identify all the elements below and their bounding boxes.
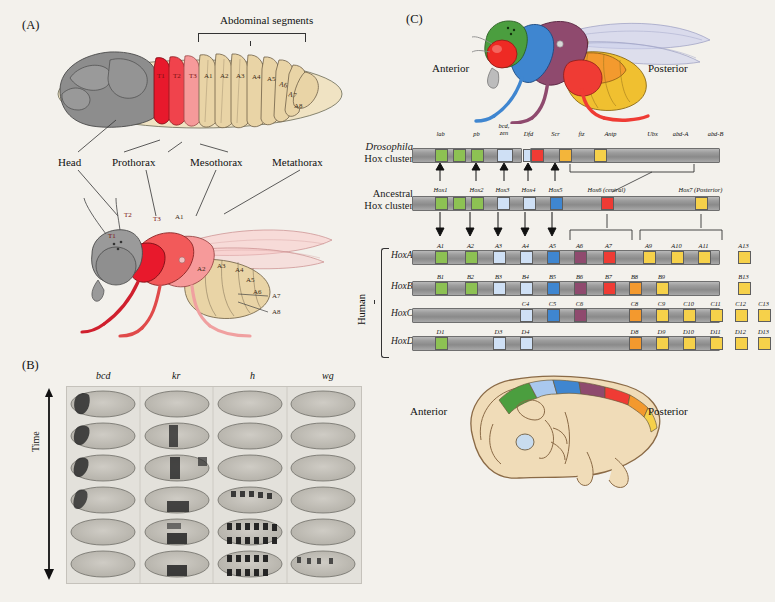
drosophila-row-label-line2: Hox cluster	[348, 153, 413, 164]
embryo-posterior-label: Posterior	[648, 405, 688, 417]
gene-box	[683, 309, 696, 322]
gene-label: A13	[722, 242, 766, 249]
panel-b-col-header-kr: kr	[172, 370, 180, 381]
hoxb-cluster-bar	[412, 281, 720, 296]
human-bracket-stem	[374, 300, 375, 304]
gene-box	[629, 309, 642, 322]
gene-label: abd-B	[694, 130, 738, 137]
callout-metathorax: Metathorax	[272, 156, 323, 168]
hoxb-gene-labels: B1B2B3B4B5B6B7B8B9B13	[412, 271, 727, 283]
gene-box	[574, 309, 587, 322]
panel-b-col-header-wg: wg	[322, 370, 334, 381]
gene-box	[435, 337, 448, 350]
panel-b-col-header-h: h	[250, 370, 255, 381]
hoxc-cluster-bar	[412, 308, 720, 323]
panel-a-leader-lines	[48, 100, 348, 160]
gene-box	[465, 251, 478, 264]
gene-label: B9	[640, 273, 684, 280]
gene-label: C6	[558, 300, 602, 307]
gene-box	[435, 197, 448, 210]
central-group-bracket	[412, 162, 727, 196]
abdominal-segments-label: Abdominal segments	[220, 14, 313, 26]
panel-a-letter: (A)	[22, 18, 39, 33]
gene-box	[735, 309, 748, 322]
hoxc-row-label: HoxC	[391, 308, 413, 318]
ancestral-row-label-line2: Hox cluster	[348, 200, 413, 211]
hoxd-gene-labels: D1D3D4D8D9D10D11D12D13	[412, 326, 727, 338]
gene-box	[453, 149, 466, 162]
gene-box	[656, 282, 669, 295]
larva-segment-a2: A2	[220, 72, 229, 80]
gene-box	[683, 337, 696, 350]
human-bracket-label: Human	[356, 294, 367, 325]
gene-box	[629, 337, 642, 350]
adult-segment-a4: A4	[235, 266, 244, 274]
gene-box	[435, 251, 448, 264]
gene-box	[497, 149, 513, 162]
gene-label: D13	[742, 328, 775, 335]
gene-box	[710, 337, 723, 350]
adult-a7-a8-leaders	[236, 286, 278, 316]
time-axis-arrow	[38, 388, 60, 584]
gene-box	[520, 309, 533, 322]
gene-box	[497, 197, 510, 210]
gene-label: D4	[504, 328, 548, 335]
gene-label: B13	[722, 273, 766, 280]
panel-b-letter: (B)	[22, 358, 39, 373]
gene-label: C13	[742, 300, 775, 307]
gene-box	[695, 197, 708, 210]
fly-anterior-label: Anterior	[432, 62, 469, 74]
drosophila-gene-labels: labpbbcd,zenDfdScrftzAntpUbxabd-Aabd-B	[412, 128, 727, 148]
gene-box	[493, 251, 506, 264]
gene-box	[547, 309, 560, 322]
gene-box	[594, 149, 607, 162]
gene-box	[603, 282, 616, 295]
adult-segment-t3: T3	[153, 215, 161, 223]
hoxc-gene-labels: C4C5C6C8C9C10C11C12C13	[412, 298, 727, 310]
larva-segment-t3: T3	[189, 72, 197, 80]
hoxa-row-label: HoxA	[391, 250, 413, 260]
gene-box	[758, 309, 771, 322]
ancestral-row-label-line1: Ancestral	[348, 188, 413, 199]
larva-segment-a3: A3	[236, 72, 245, 80]
gene-box	[735, 337, 748, 350]
gene-box	[574, 282, 587, 295]
gene-label: D1	[419, 328, 463, 335]
gene-label: Antp	[589, 130, 633, 137]
gene-box	[453, 197, 466, 210]
adult-segment-t2: T2	[124, 211, 132, 219]
embryo-anterior-label: Anterior	[410, 405, 447, 417]
gene-box	[547, 251, 560, 264]
larva-segment-a5: A5	[267, 75, 276, 83]
callout-prothorax: Prothorax	[112, 156, 155, 168]
hoxd-cluster-bar	[412, 336, 720, 351]
time-axis-label: Time	[30, 431, 41, 452]
gene-box	[471, 149, 484, 162]
hoxa-cluster-bar	[412, 250, 720, 265]
gene-box	[738, 282, 751, 295]
panel-b-col-header-bcd: bcd	[96, 370, 110, 381]
adult-segment-a3: A3	[217, 262, 226, 270]
gene-box	[710, 309, 723, 322]
gene-box	[493, 282, 506, 295]
gene-box	[471, 197, 484, 210]
adult-segment-t1: T1	[108, 232, 116, 240]
hoxb-row-label: HoxB	[391, 281, 413, 291]
gene-box	[531, 149, 544, 162]
panel-b-micrograph-grid	[66, 386, 362, 584]
gene-box	[559, 149, 572, 162]
gene-box	[603, 251, 616, 264]
gene-box	[758, 337, 771, 350]
callout-mesothorax: Mesothorax	[190, 156, 243, 168]
larva-segment-a1: A1	[204, 72, 213, 80]
gene-box	[520, 251, 533, 264]
drosophila-hox-cluster-bar-right	[530, 148, 720, 163]
callout-head: Head	[58, 156, 81, 168]
gene-box	[656, 309, 669, 322]
gene-box	[574, 251, 587, 264]
adult-segment-a5: A5	[246, 276, 255, 284]
adult-segment-a1: A1	[175, 213, 184, 221]
gene-box	[493, 337, 506, 350]
gene-box	[523, 197, 536, 210]
fly-posterior-label: Posterior	[648, 62, 688, 74]
